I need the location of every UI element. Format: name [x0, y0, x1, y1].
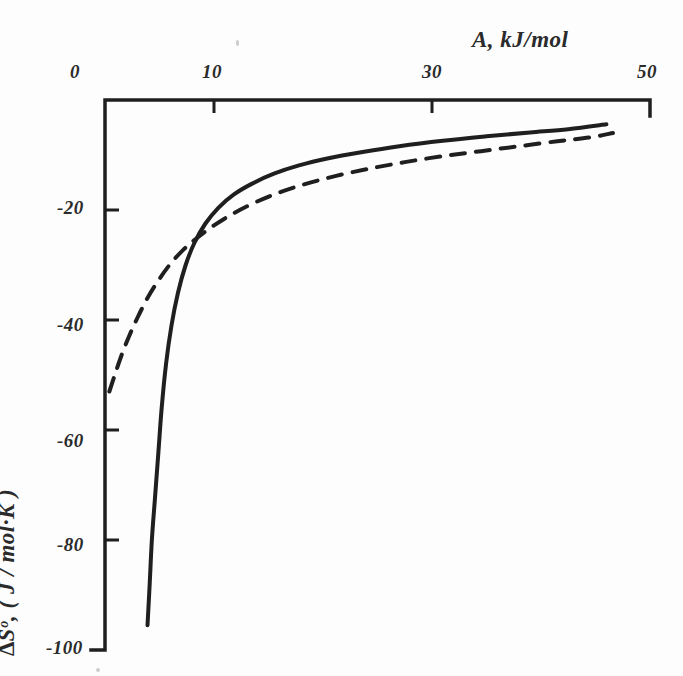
y-axis-title: ∆Sᵒ, ( J / mol·K ): [0, 489, 20, 656]
y-tick-label-40: -40: [57, 314, 84, 336]
x-tick-label-0: 0: [70, 61, 80, 83]
x-tick-label-50: 50: [637, 61, 657, 83]
x-tick-label-10: 10: [202, 61, 222, 83]
y-tick-label-60: -60: [57, 430, 84, 452]
y-tick-label-100: -100: [46, 637, 83, 659]
figure-canvas: A, kJ/mol 0 10 30 50 -20 -40 -60 -80 -10…: [0, 0, 683, 676]
x-tick-label-30: 30: [422, 61, 442, 83]
solid-curve: [148, 124, 607, 625]
y-tick-label-20: -20: [57, 197, 84, 219]
x-axis-ticks: [214, 100, 432, 113]
y-axis-ticks: [105, 210, 119, 540]
axis-frame: [91, 100, 650, 650]
y-tick-label-80: -80: [57, 534, 84, 556]
plot-svg: [0, 0, 683, 676]
x-axis-title: A, kJ/mol: [472, 27, 569, 53]
data-series-group: [109, 124, 613, 625]
